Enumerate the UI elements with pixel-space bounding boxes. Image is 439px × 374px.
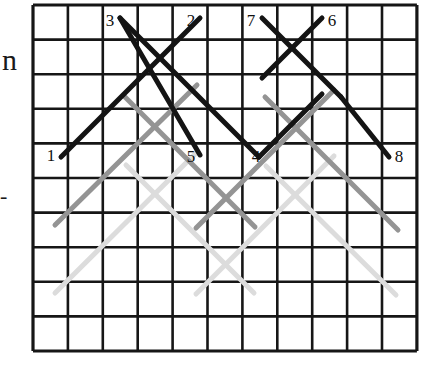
endpoint-label-1: 1	[47, 146, 56, 165]
endpoint-label-7: 7	[247, 11, 256, 30]
endpoint-label-6: 6	[328, 11, 337, 30]
endpoint-label-5: 5	[187, 147, 196, 166]
endpoint-label-4: 4	[252, 147, 261, 166]
endpoint-label-8: 8	[395, 147, 404, 166]
endpoint-label-3: 3	[106, 11, 115, 30]
left-dash-mark: -	[0, 183, 7, 208]
endpoint-label-2: 2	[187, 11, 196, 30]
grid-diagram-figure: n- 32761548	[0, 0, 439, 374]
diagram-canvas: n- 32761548	[0, 0, 439, 374]
left-partial-letter: n	[2, 43, 17, 76]
canvas-background	[0, 0, 439, 374]
